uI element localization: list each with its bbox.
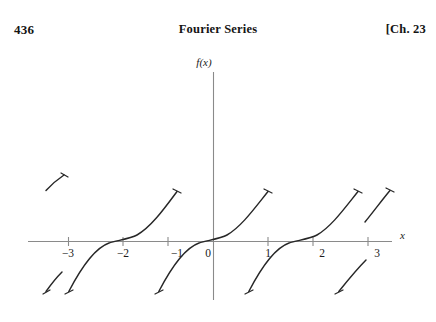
- plot-svg: f(x) x −3 −2 −1 0 1 2 3: [0, 44, 436, 322]
- figure-periodic-cubic: f(x) x −3 −2 −1 0 1 2 3: [0, 44, 436, 322]
- running-title: Fourier Series: [0, 22, 436, 37]
- x-tick-label: −2: [117, 247, 129, 259]
- x-tick-label: −3: [62, 247, 74, 259]
- x-tick-labels: −3 −2 −1 0 1 2 3: [62, 247, 380, 259]
- x-tick-label: 2: [319, 247, 325, 259]
- textbook-page: 436 Fourier Series [Ch. 23 f(x) x: [0, 0, 436, 322]
- curve-branch-partial-left: [43, 173, 68, 294]
- chapter-marker: [Ch. 23: [386, 22, 426, 37]
- running-head: 436 Fourier Series [Ch. 23: [0, 22, 436, 40]
- x-tick-label: 0: [205, 247, 211, 259]
- x-tick-label: 3: [374, 247, 380, 259]
- y-axis-label: f(x): [196, 56, 212, 69]
- x-axis-label: x: [399, 229, 405, 241]
